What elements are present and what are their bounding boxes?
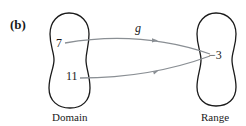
- domain-element-7: 7: [56, 36, 62, 50]
- domain-set-outline: [49, 13, 90, 108]
- diagram-svg: (b) g 7 11 −3 Domain Range: [0, 0, 246, 126]
- function-name-label: g: [135, 21, 141, 35]
- domain-element-11: 11: [66, 69, 78, 83]
- function-mapping-diagram: (b) g 7 11 −3 Domain Range: [0, 0, 246, 126]
- range-element-neg3: −3: [209, 48, 222, 62]
- domain-label: Domain: [52, 111, 88, 123]
- panel-label: (b): [10, 17, 26, 32]
- mapping-arrow-11-to-neg3: [80, 56, 210, 78]
- range-label: Range: [201, 111, 229, 123]
